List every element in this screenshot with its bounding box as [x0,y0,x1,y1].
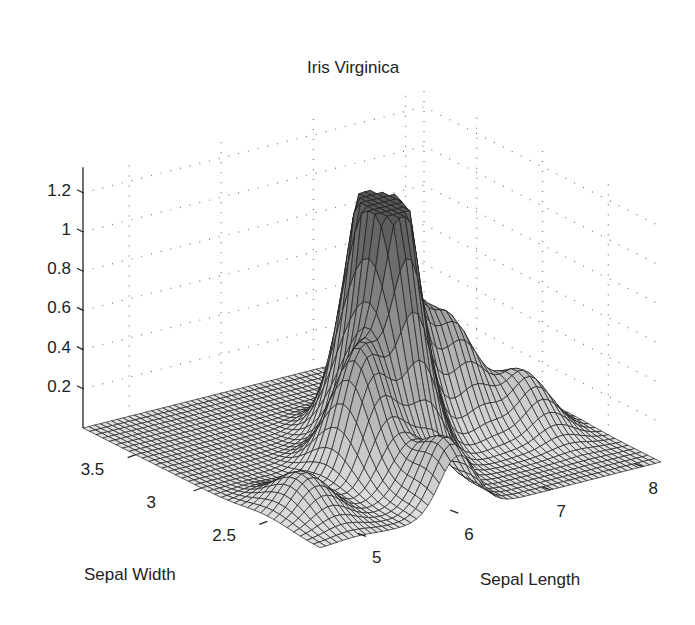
z-tick-label: 1 [62,220,71,240]
x-tick-label: 5 [372,548,381,568]
z-tick-label: 0.2 [47,377,71,397]
y-tick-label: 3.5 [81,460,105,480]
z-tick-label: 0.4 [47,338,71,358]
y-tick-label: 3 [147,493,156,513]
z-tick-label: 0.6 [47,298,71,318]
z-tick-label: 1.2 [47,181,71,201]
chart-title: Iris Virginica [307,58,399,78]
x-tick-label: 6 [464,525,473,545]
z-tick-label: 0.8 [47,259,71,279]
x-axis-label: Sepal Length [480,570,580,590]
y-axis-label: Sepal Width [84,565,176,585]
surface-plot [0,0,695,625]
x-tick-label: 7 [556,502,565,522]
y-tick-label: 2.5 [212,526,236,546]
x-tick-label: 8 [649,479,658,499]
mesh-surface [83,191,661,548]
